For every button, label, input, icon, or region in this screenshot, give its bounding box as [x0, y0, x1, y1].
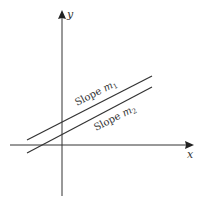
- svg-text:Slope m2: Slope m2: [92, 102, 138, 134]
- diagram: y x Slope m1 Slope m2: [0, 0, 198, 198]
- label-slope-m2: Slope m2: [92, 102, 138, 134]
- x-axis-label: x: [187, 148, 194, 161]
- y-axis-label: y: [66, 8, 74, 21]
- y-axis-arrow-icon: [58, 10, 66, 19]
- diagram-canvas: y x Slope m1 Slope m2: [0, 0, 198, 198]
